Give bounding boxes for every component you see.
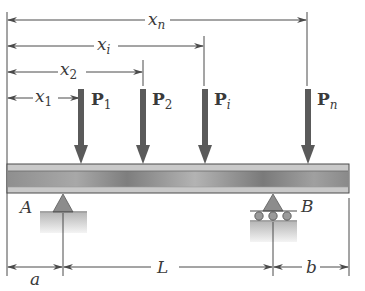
- load-pi-sub: i: [227, 98, 231, 112]
- load-arrow-p1: P1: [74, 89, 111, 164]
- dim-x-n-sub: n: [158, 18, 166, 32]
- dim-a-label: a: [30, 269, 40, 289]
- support-a-pin: A: [18, 194, 87, 276]
- dim-x-n-name: x: [148, 9, 158, 29]
- svg-text:P1: P1: [91, 89, 111, 112]
- load-arrow-p2: P2: [136, 89, 172, 164]
- dim-x-2-sub: 2: [70, 68, 78, 82]
- load-pi-name: P: [214, 89, 227, 109]
- dim-x-1-sub: 1: [45, 95, 53, 109]
- load-arrow-pn: Pn: [301, 89, 338, 164]
- dimension-a: a: [8, 267, 62, 289]
- load-pn-name: P: [317, 89, 330, 109]
- load-p2-sub: 2: [165, 98, 173, 112]
- dimension-x-1: x1: [8, 86, 79, 109]
- dim-x-2-name: x: [60, 59, 70, 79]
- dim-b-label: b: [306, 257, 317, 277]
- svg-text:Pn: Pn: [317, 89, 338, 112]
- dimension-x-2: x2: [8, 59, 143, 86]
- load-p1-sub: 1: [104, 98, 112, 112]
- dim-x-1-name: x: [35, 86, 45, 106]
- roller-1: [255, 212, 263, 220]
- dimension-x-i: xi: [8, 34, 204, 86]
- svg-text:P2: P2: [152, 89, 172, 112]
- beam: [7, 164, 349, 193]
- dim-x-i-name: x: [97, 34, 107, 54]
- support-b-label: B: [300, 196, 314, 216]
- dimension-b: b: [274, 256, 348, 277]
- roller-2: [269, 212, 277, 220]
- dim-x-i-sub: i: [107, 43, 111, 57]
- roller-3: [283, 212, 291, 220]
- dim-L-label: L: [156, 257, 168, 277]
- load-p1-name: P: [91, 89, 104, 109]
- load-arrow-pi: Pi: [198, 89, 231, 164]
- dimension-L: L: [64, 256, 272, 277]
- load-p2-name: P: [152, 89, 165, 109]
- svg-text:Pi: Pi: [214, 89, 231, 112]
- support-a-label: A: [18, 197, 32, 217]
- load-pn-sub: n: [330, 98, 338, 112]
- beam-diagram: xn xi x2 x1 P1: [0, 0, 365, 291]
- dimension-x-n: xn: [8, 9, 307, 86]
